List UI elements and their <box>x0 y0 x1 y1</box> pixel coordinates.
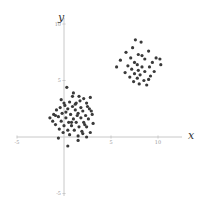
data-point-cluster-1 <box>89 131 92 134</box>
data-point-cluster-1 <box>70 121 73 124</box>
data-point-cluster-1 <box>77 134 80 137</box>
data-point-cluster-2 <box>119 59 122 62</box>
y-axis-label: y <box>57 11 65 24</box>
data-point-cluster-1 <box>81 109 84 112</box>
data-point-cluster-1 <box>83 123 86 126</box>
data-point-cluster-2 <box>136 63 139 66</box>
data-point-cluster-1 <box>72 91 75 94</box>
data-point-cluster-1 <box>65 86 68 89</box>
data-point-cluster-1 <box>58 128 61 131</box>
data-point-cluster-1 <box>54 123 57 126</box>
data-point-cluster-2 <box>153 70 156 73</box>
data-point-cluster-2 <box>132 80 135 83</box>
data-point-cluster-1 <box>71 105 74 108</box>
data-point-cluster-1 <box>66 144 69 147</box>
data-point-cluster-1 <box>69 113 72 116</box>
scatter-chart: -5510 -5510 x y <box>0 0 208 209</box>
data-point-cluster-2 <box>124 51 127 54</box>
data-point-cluster-1 <box>66 107 69 110</box>
data-point-cluster-1 <box>84 114 87 117</box>
data-point-cluster-2 <box>143 57 146 60</box>
data-point-cluster-1 <box>79 116 82 119</box>
data-point-cluster-1 <box>88 107 91 110</box>
data-point-cluster-1 <box>89 96 92 99</box>
data-point-cluster-2 <box>145 83 148 86</box>
data-point-cluster-1 <box>62 131 65 134</box>
data-point-cluster-2 <box>142 79 145 82</box>
data-point-cluster-1 <box>62 124 65 127</box>
data-point-cluster-2 <box>159 63 162 66</box>
data-point-cluster-2 <box>143 70 146 73</box>
data-point-cluster-1 <box>71 95 74 98</box>
data-point-cluster-1 <box>61 112 64 115</box>
data-point-cluster-1 <box>59 106 62 109</box>
data-point-cluster-1 <box>85 102 88 105</box>
data-point-cluster-2 <box>115 65 118 68</box>
data-point-cluster-1 <box>54 114 57 117</box>
data-point-cluster-2 <box>129 56 132 59</box>
data-point-cluster-1 <box>68 133 71 136</box>
data-point-cluster-1 <box>68 100 71 103</box>
data-point-cluster-2 <box>130 68 133 71</box>
data-point-cluster-1 <box>62 102 65 105</box>
data-point-cluster-1 <box>72 117 75 120</box>
data-point-cluster-2 <box>149 74 152 77</box>
data-point-cluster-2 <box>133 72 136 75</box>
y-tick-label: 5 <box>58 77 61 83</box>
data-point-cluster-1 <box>75 121 78 124</box>
data-point-cluster-1 <box>67 121 70 124</box>
data-point-cluster-2 <box>138 82 141 85</box>
data-point-cluster-1 <box>82 97 85 100</box>
data-point-cluster-2 <box>137 69 140 72</box>
data-point-cluster-2 <box>140 54 143 57</box>
data-point-cluster-2 <box>137 53 140 56</box>
data-point-cluster-1 <box>77 125 80 128</box>
data-point-cluster-2 <box>136 77 139 80</box>
data-point-cluster-1 <box>60 98 63 101</box>
data-point-cluster-2 <box>147 78 150 81</box>
data-point-cluster-1 <box>60 120 63 123</box>
data-point-cluster-2 <box>124 71 127 74</box>
data-point-cluster-2 <box>134 38 137 41</box>
data-point-cluster-1 <box>78 99 81 102</box>
data-point-cluster-1 <box>85 135 88 138</box>
data-point-cluster-1 <box>73 129 76 132</box>
data-point-cluster-2 <box>140 41 143 44</box>
data-point-cluster-1 <box>87 117 90 120</box>
data-point-cluster-1 <box>64 116 67 119</box>
data-point-cluster-1 <box>92 122 95 125</box>
x-axis-label: x <box>188 129 195 142</box>
data-point-cluster-1 <box>57 137 60 140</box>
data-point-cluster-1 <box>51 120 54 123</box>
data-point-cluster-1 <box>77 139 80 142</box>
data-point-cluster-1 <box>66 129 69 132</box>
data-point-cluster-2 <box>128 76 131 79</box>
data-point-cluster-2 <box>158 57 161 60</box>
data-point-cluster-1 <box>76 114 79 117</box>
data-point-cluster-2 <box>139 73 142 76</box>
data-point-cluster-2 <box>147 50 150 53</box>
data-point-cluster-2 <box>133 61 136 64</box>
x-tick-label: 5 <box>109 139 112 145</box>
data-point-cluster-1 <box>48 116 51 119</box>
data-point-cluster-1 <box>74 103 77 106</box>
data-point-cluster-1 <box>77 95 80 98</box>
data-point-cluster-2 <box>155 56 158 59</box>
x-tick-label: -5 <box>15 139 20 145</box>
data-point-cluster-2 <box>140 65 143 68</box>
data-point-cluster-1 <box>81 132 84 135</box>
data-point-cluster-2 <box>148 65 151 68</box>
data-point-cluster-1 <box>74 108 77 111</box>
y-tick-label: -5 <box>56 190 61 196</box>
data-point-cluster-1 <box>91 113 94 116</box>
data-point-cluster-2 <box>131 46 134 49</box>
data-point-cluster-1 <box>79 106 82 109</box>
data-point-cluster-1 <box>70 124 73 127</box>
data-point-cluster-1 <box>55 108 58 111</box>
data-point-cluster-1 <box>57 115 60 118</box>
data-point-cluster-2 <box>151 61 154 64</box>
x-tick-label: 10 <box>155 139 161 145</box>
data-point-cluster-2 <box>126 64 129 67</box>
data-points <box>48 38 162 147</box>
data-point-cluster-1 <box>64 111 67 114</box>
